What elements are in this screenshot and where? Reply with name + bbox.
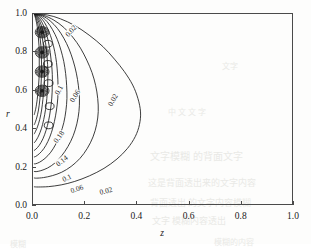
- x-axis-tick: [189, 201, 190, 205]
- y-axis-tick-label: 0.6: [4, 85, 27, 95]
- x-axis-tick: [293, 201, 294, 205]
- y-axis-tick-label: 0.8: [4, 46, 27, 56]
- y-axis-tick-label: 0.0: [4, 200, 27, 210]
- y-axis-tick: [32, 167, 36, 168]
- x-axis-tick-label: 0.4: [130, 211, 142, 221]
- contour-line: [34, 14, 140, 187]
- contour-maximum-core: [40, 70, 44, 74]
- contour-closed-loop: [45, 103, 54, 110]
- contour-maximum-core: [40, 89, 44, 93]
- y-axis-tick: [32, 13, 36, 14]
- y-axis-tick: [32, 90, 36, 91]
- contour-maximum-core: [40, 51, 44, 55]
- x-axis-tick-label: 0.6: [183, 211, 195, 221]
- x-axis-tick-label: 0.8: [235, 211, 247, 221]
- contour-maximum-core: [40, 30, 44, 34]
- y-axis-tick: [32, 128, 36, 129]
- contour-closed-loop: [44, 122, 53, 129]
- x-axis-tick-label: 0.0: [26, 211, 38, 221]
- y-axis-tick-label: 0.4: [4, 123, 27, 133]
- x-axis-tick: [84, 201, 85, 205]
- y-axis-tick: [32, 205, 36, 206]
- bleedthrough-text: 模糊: [10, 238, 26, 249]
- bleedthrough-text: 模糊的内容: [214, 236, 254, 247]
- y-axis-tick: [32, 51, 36, 52]
- x-axis-tick-label: 0.2: [78, 211, 90, 221]
- contour-closed-loop: [43, 40, 52, 47]
- x-axis-tick: [241, 201, 242, 205]
- y-axis-tick-label: 1.0: [4, 8, 27, 18]
- y-axis-title: r: [6, 109, 10, 119]
- x-axis-title: z: [160, 228, 164, 238]
- x-axis-tick: [136, 201, 137, 205]
- y-axis-tick-label: 0.2: [4, 162, 27, 172]
- x-axis-tick-label: 1.0: [287, 211, 299, 221]
